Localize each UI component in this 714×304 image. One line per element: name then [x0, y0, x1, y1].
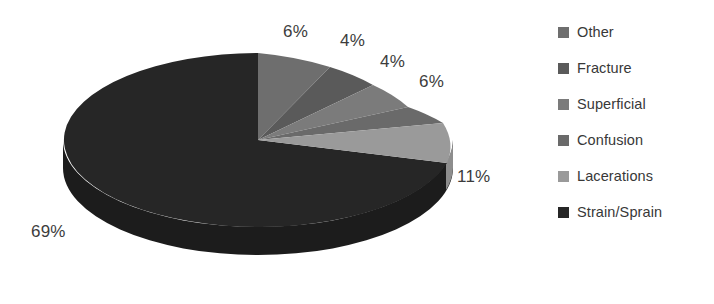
legend-item-other[interactable]: Other [558, 14, 708, 50]
legend-item-confusion[interactable]: Confusion [558, 122, 708, 158]
legend-label: Other [577, 24, 614, 40]
legend-swatch-icon [558, 207, 569, 218]
slice-label-lacerations: 11% [457, 167, 490, 187]
legend-label: Lacerations [577, 168, 653, 184]
legend-item-fracture[interactable]: Fracture [558, 50, 708, 86]
pie-top-face [64, 53, 450, 227]
legend-swatch-icon [558, 99, 569, 110]
legend-label: Superficial [577, 96, 646, 112]
pie-graphic: 6% 4% 4% 6% 11% 69% [0, 0, 540, 304]
slice-label-superficial: 4% [380, 52, 405, 72]
pie-svg [0, 0, 540, 304]
legend-label: Strain/Sprain [577, 204, 662, 220]
slice-label-fracture: 4% [340, 31, 365, 51]
legend-label: Fracture [577, 60, 632, 76]
legend-swatch-icon [558, 135, 569, 146]
legend-swatch-icon [558, 27, 569, 38]
legend-item-lacerations[interactable]: Lacerations [558, 158, 708, 194]
slice-label-strain-sprain: 69% [31, 222, 66, 242]
pie-chart: 6% 4% 4% 6% 11% 69% Other Fracture Super… [0, 0, 714, 304]
legend: Other Fracture Superficial Confusion Lac… [558, 14, 708, 230]
legend-swatch-icon [558, 171, 569, 182]
legend-label: Confusion [577, 132, 643, 148]
legend-swatch-icon [558, 63, 569, 74]
legend-item-superficial[interactable]: Superficial [558, 86, 708, 122]
legend-item-strain-sprain[interactable]: Strain/Sprain [558, 194, 708, 230]
slice-label-confusion: 6% [419, 72, 444, 92]
slice-label-other: 6% [283, 22, 308, 42]
